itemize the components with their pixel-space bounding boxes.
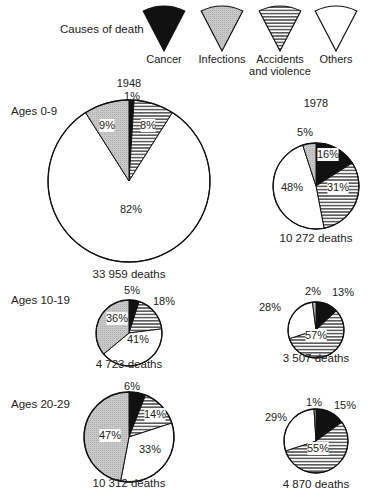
pie-ages-20-29-1978: 15%55%29%1%4 870 deaths <box>265 396 356 490</box>
age-label-20-29: Ages 20-29 <box>11 398 70 410</box>
year-label-1948: 1948 <box>117 77 141 89</box>
total-deaths-label: 4 723 deaths <box>96 358 163 370</box>
slice-label: 57% <box>305 329 327 341</box>
slice-label: 8% <box>140 119 156 131</box>
slice-label: 9% <box>99 119 115 131</box>
slice-label: 41% <box>127 333 149 345</box>
slice-label: 15% <box>334 399 356 411</box>
slice-label: 55% <box>307 442 329 454</box>
total-deaths-label: 4 870 deaths <box>283 478 350 490</box>
slice-label: 28% <box>259 301 281 313</box>
legend-item-accidents: Accidentsand violence <box>249 6 311 77</box>
pie-ages-10-19-1948: 5%18%41%36%4 723 deaths <box>96 284 175 370</box>
slice-label: 1% <box>124 90 140 102</box>
slice-label: 47% <box>99 429 121 441</box>
legend-item-cancer: Cancer <box>143 6 185 65</box>
slice-label: 6% <box>124 380 140 392</box>
slice-label: 18% <box>153 295 175 307</box>
slice-label: 29% <box>265 411 287 423</box>
slice-label: 82% <box>120 203 142 215</box>
legend-label: Cancer <box>146 53 182 65</box>
legend-label: Accidents <box>256 53 304 65</box>
legend-swatch-infections-icon <box>201 6 243 51</box>
legend-label: Others <box>319 53 353 65</box>
pie-ages-0-9-1948: 1%8%82%9%33 959 deaths <box>48 90 210 280</box>
total-deaths-label: 10 312 deaths <box>93 477 166 489</box>
pie-ages-20-29-1948: 6%14%33%47%10 312 deaths <box>84 380 174 489</box>
legend-item-others: Others <box>315 6 357 65</box>
pie-ages-10-19-1978: 13%57%28%2%3 507 deaths <box>259 285 354 364</box>
legend-swatch-others-icon <box>315 6 357 51</box>
legend-swatch-accidents-icon <box>259 6 301 51</box>
slice-label: 36% <box>106 312 128 324</box>
legend-swatch-cancer-icon <box>143 6 185 51</box>
legend-title: Causes of death <box>60 23 144 35</box>
slice-label: 14% <box>144 408 166 420</box>
slice-label: 48% <box>281 181 303 193</box>
total-deaths-label: 33 959 deaths <box>93 268 166 280</box>
slice-label: 31% <box>327 181 349 193</box>
legend: Causes of death CancerInfectionsAccident… <box>60 6 357 77</box>
slice-label: 13% <box>332 286 354 298</box>
slice-label: 1% <box>306 396 322 408</box>
age-label-10-19: Ages 10-19 <box>11 294 70 306</box>
pie-chart-figure: Causes of death CancerInfectionsAccident… <box>0 0 369 495</box>
age-label-0-9: Ages 0-9 <box>11 105 57 117</box>
legend-label-line2: and violence <box>249 65 311 77</box>
legend-label: Infections <box>198 53 246 65</box>
slice-label: 5% <box>297 126 313 138</box>
pie-ages-0-9-1978: 16%31%48%5%10 272 deaths <box>273 126 359 244</box>
slice-label: 2% <box>305 285 321 297</box>
total-deaths-label: 3 507 deaths <box>283 352 350 364</box>
slice-label: 16% <box>317 148 339 160</box>
total-deaths-label: 10 272 deaths <box>280 232 353 244</box>
slice-label: 5% <box>124 284 140 296</box>
year-label-1978: 1978 <box>304 97 328 109</box>
legend-item-infections: Infections <box>198 6 246 65</box>
slice-label: 33% <box>139 443 161 455</box>
